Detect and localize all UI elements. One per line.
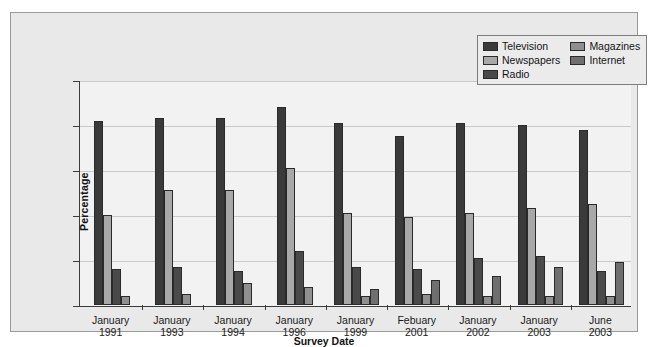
x-axis-tick-label-line: January: [264, 314, 325, 326]
bar-group: [203, 81, 264, 305]
x-axis-tick: [203, 305, 204, 310]
bar: [588, 204, 597, 305]
legend-label: Radio: [502, 68, 529, 80]
bar: [536, 256, 545, 306]
bar: [492, 276, 501, 305]
bar: [155, 118, 164, 305]
bar-group: [387, 81, 448, 305]
legend-label: Magazines: [589, 40, 640, 52]
legend-item: Magazines: [570, 40, 640, 52]
bar: [413, 269, 422, 305]
bar: [182, 294, 191, 305]
bar: [286, 168, 295, 305]
legend-swatch-icon: [570, 42, 585, 51]
legend-item: Newspapers: [483, 54, 560, 66]
bar: [295, 251, 304, 305]
bar: [243, 283, 252, 306]
y-axis-tick: [73, 306, 80, 307]
y-axis-tick: [73, 261, 80, 262]
bar: [361, 296, 370, 305]
bar: [554, 267, 563, 305]
x-axis-tick-label-line: Febuary: [386, 314, 447, 326]
x-axis-tick-label-line: January: [141, 314, 202, 326]
legend-label: Television: [502, 40, 548, 52]
bar-group: [510, 81, 571, 305]
bar: [527, 208, 536, 305]
bar: [234, 271, 243, 305]
x-axis-tick-label-line: January: [80, 314, 141, 326]
legend-swatch-icon: [483, 70, 498, 79]
bar: [465, 213, 474, 305]
legend-swatch-icon: [483, 42, 498, 51]
legend-label: Internet: [589, 54, 625, 66]
bar: [545, 296, 554, 305]
x-axis-tick: [142, 305, 143, 310]
bar: [370, 289, 379, 305]
y-axis-tick: [73, 81, 80, 82]
bar: [579, 130, 588, 306]
x-axis-tick-label-line: January: [509, 314, 570, 326]
bar-group: [265, 81, 326, 305]
bar: [352, 267, 361, 305]
bar: [103, 215, 112, 305]
bar: [615, 262, 624, 305]
bar-groups: [81, 81, 631, 305]
bar: [606, 296, 615, 305]
bar: [456, 123, 465, 305]
bar: [483, 296, 492, 305]
legend-label: Newspapers: [502, 54, 560, 66]
bar-group: [448, 81, 509, 305]
bar: [474, 258, 483, 305]
bar: [225, 190, 234, 305]
y-axis-tick: [73, 126, 80, 127]
bar: [94, 121, 103, 306]
bar: [164, 190, 173, 305]
x-axis-tick: [326, 305, 327, 310]
plot-area: 020406080100 Percentage January1991Janua…: [79, 81, 631, 307]
legend-swatch-icon: [570, 56, 585, 65]
bar: [121, 296, 130, 305]
bar: [304, 287, 313, 305]
bar-group: [142, 81, 203, 305]
bar: [518, 125, 527, 305]
legend-swatch-icon: [483, 56, 498, 65]
x-axis-tick: [448, 305, 449, 310]
bar: [216, 118, 225, 305]
x-axis-title: Survey Date: [11, 335, 637, 347]
bar: [395, 136, 404, 305]
bar: [597, 271, 606, 305]
x-axis-tick-label-line: January: [325, 314, 386, 326]
x-axis-tick: [510, 305, 511, 310]
x-axis-tick-label-line: June: [570, 314, 631, 326]
chart-plate: 020406080100 Percentage January1991Janua…: [10, 12, 638, 332]
x-axis-tick: [571, 305, 572, 310]
legend-item: Radio: [483, 68, 560, 80]
x-axis-tick-label-line: January: [447, 314, 508, 326]
x-axis-tick: [387, 305, 388, 310]
x-axis-tick: [265, 305, 266, 310]
bar: [173, 267, 182, 305]
legend-grid: TelevisionMagazinesNewspapersInternetRad…: [483, 40, 640, 80]
bar: [431, 280, 440, 305]
bar-group: [571, 81, 632, 305]
legend-item: Television: [483, 40, 560, 52]
chart-legend: TelevisionMagazinesNewspapersInternetRad…: [477, 35, 647, 85]
bar: [112, 269, 121, 305]
bar-group: [326, 81, 387, 305]
bar: [422, 294, 431, 305]
x-axis-tick-label-line: January: [202, 314, 263, 326]
legend-item: Internet: [570, 54, 640, 66]
bar: [404, 217, 413, 305]
bar: [343, 213, 352, 305]
bar-group: [81, 81, 142, 305]
bar: [334, 123, 343, 305]
bar: [277, 107, 286, 305]
